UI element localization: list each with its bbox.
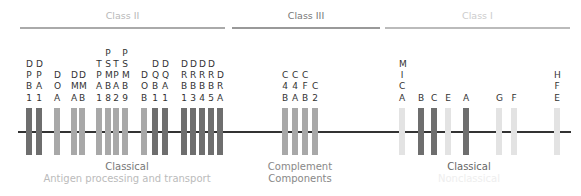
gene-label-char: A [399,93,405,104]
gene-label-char: Q [152,70,158,81]
gene-label-char: C [292,70,298,81]
class-header-rule [232,27,380,29]
gene-label-char: A [463,93,469,104]
gene-label: PSMB9 [122,48,128,104]
gene-label: PSMB8 [105,48,111,104]
gene-label-char: A [113,81,119,92]
gene-label: DPB1 [26,59,32,104]
gene-label-char: 8 [105,93,111,104]
class-header-label: Class II [20,10,225,21]
gene-bar [122,108,128,155]
gene-label-char: B [79,93,85,104]
gene-label-char: B [208,81,214,92]
gene-label-char: D [71,70,77,81]
gene-label-char: A [54,93,60,104]
gene-bar [152,108,158,155]
class-header-rule [20,27,225,29]
gene-label: HFE [554,70,560,104]
gene-label-char: B [26,81,32,92]
gene-label-char: A [292,93,298,104]
gene-label-char: B [181,81,187,92]
gene-label-char: Q [162,70,168,81]
gene-label-char: D [152,59,158,70]
gene-bar [36,108,42,155]
gene-label-char: 1 [181,93,187,104]
gene-label-char: A [162,81,168,92]
gene-label-char: 2 [113,93,119,104]
gene-label-char: B [141,93,147,104]
gene-label-char: B [418,93,424,104]
gene-label: B [418,93,424,104]
caption-line: Classical [359,161,579,173]
gene-label-char: 2 [312,93,318,104]
gene-label: DOA [54,70,60,104]
gene-label-char: A [217,93,223,104]
gene-label-char: D [217,70,223,81]
class-header-label: Class III [232,10,380,21]
gene-bar [302,108,308,155]
gene-label: DMA [71,70,77,104]
gene-label-char: H [554,70,560,81]
gene-label: E [445,93,451,104]
gene-bar [208,108,214,155]
gene-label-char: 1 [162,93,168,104]
gene-label-char: R [181,70,187,81]
gene-label: DRB1 [181,59,187,104]
gene-label-char: G [496,93,502,104]
gene-label: DPA1 [36,59,42,104]
gene-label: DRB4 [199,59,205,104]
gene-label-char: 9 [122,93,128,104]
gene-label-char: R [199,70,205,81]
gene-label-char: P [26,70,32,81]
gene-label: F [511,93,517,104]
gene-bar [292,108,298,155]
gene-label: DOB [141,70,147,104]
gene-label: MICA [399,59,405,104]
gene-label-char: I [399,70,405,81]
gene-bar [282,108,288,155]
gene-bar [190,108,196,155]
gene-bar [105,108,111,155]
gene-label: C2 [312,81,318,104]
gene-label: CFB [302,70,308,104]
class-header-label: Class I [385,10,570,21]
gene-label-char: M [71,81,77,92]
gene-label: DRB5 [208,59,214,104]
gene-bar [162,108,168,155]
gene-label-char: A [96,81,102,92]
gene-label-char: D [54,70,60,81]
gene-label-char: 4 [292,81,298,92]
gene-bar [312,108,318,155]
gene-label-char: B [199,81,205,92]
gene-label-char: 1 [96,93,102,104]
gene-bar [54,108,60,155]
gene-label: G [496,93,502,104]
gene-label-char: E [445,93,451,104]
gene-label-char: 5 [208,93,214,104]
gene-label-char: 1 [36,93,42,104]
gene-label-char: T [113,59,119,70]
gene-bar [431,108,437,155]
gene-bar [511,108,517,155]
gene-label-char: P [122,48,128,59]
gene-label-char: B [190,81,196,92]
gene-label-char: R [190,70,196,81]
gene-label-char: R [217,81,223,92]
gene-label: DQA1 [162,59,168,104]
gene-label-char: D [162,59,168,70]
region-caption: ClassicalNonclassical [359,161,579,185]
gene-label-char: D [79,70,85,81]
gene-bar [113,108,119,155]
gene-label-char: 4 [282,81,288,92]
gene-label-char: B [105,81,111,92]
gene-label: C4B [282,70,288,104]
gene-label: DRA [217,70,223,104]
gene-label-char: D [199,59,205,70]
gene-label-char: M [399,59,405,70]
gene-label: DQB1 [152,59,158,104]
gene-label: DMB [79,70,85,104]
gene-label-char: P [96,70,102,81]
gene-bar [141,108,147,155]
gene-bar [554,108,560,155]
gene-label-char: C [282,70,288,81]
